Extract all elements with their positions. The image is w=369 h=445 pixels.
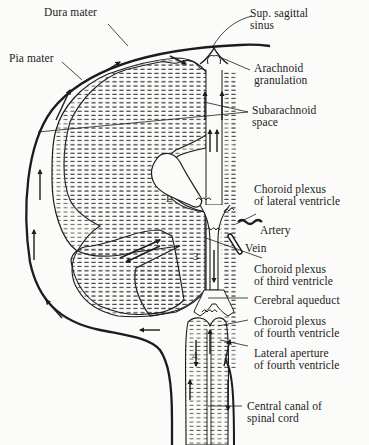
label-cerebral-aqueduct: Cerebral aqueduct [254, 294, 340, 306]
label-vein: Vein [245, 242, 266, 254]
label-artery: Artery [260, 224, 291, 236]
marker-third-ventricle: 3 [193, 250, 199, 262]
label-choroid-plexus-third: Choroid plexusof third ventricle [254, 263, 333, 287]
label-pia-mater: Pia mater [9, 52, 54, 64]
label-lateral-aperture: Lateral apertureof fourth ventricle [254, 347, 340, 371]
marker-fourth-ventricle: 4 [192, 349, 198, 361]
label-central-canal: Central canal ofspinal cord [247, 400, 322, 424]
artery-shape [238, 220, 262, 224]
label-arachnoid-granulation: Arachnoidgranulation [254, 62, 307, 86]
label-choroid-plexus-lateral: Choroid plexusof lateral ventricle [254, 183, 340, 207]
label-sup-sagittal-sinus: Sup. sagittalsinus [250, 7, 308, 31]
csf-circulation-diagram [0, 0, 369, 445]
label-choroid-plexus-fourth: Choroid plexusof fourth ventricle [254, 315, 340, 339]
label-dura-mater: Dura mater [44, 6, 97, 18]
label-subarachnoid-space: Subarachnoidspace [252, 104, 316, 128]
marker-lateral-ventricle: L [166, 192, 173, 204]
